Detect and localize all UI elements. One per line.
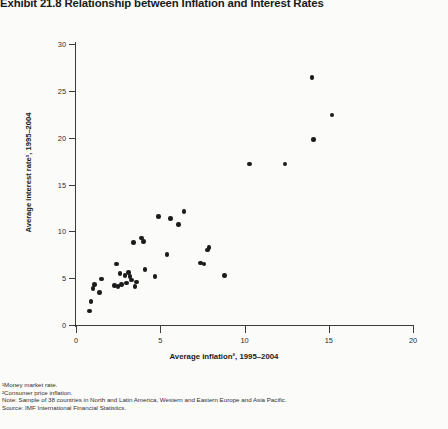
scatter-point: [207, 245, 212, 250]
y-axis-tick-label: 10: [0, 227, 66, 236]
y-axis-tick: [69, 138, 75, 139]
scatter-point: [182, 209, 187, 214]
y-axis-tick: [69, 325, 75, 326]
scatter-point: [283, 162, 288, 167]
y-axis-line: [75, 42, 76, 327]
scatter-point: [310, 75, 315, 80]
y-axis-tick: [69, 231, 75, 232]
scatter-point: [134, 280, 139, 285]
scatter-point: [99, 277, 104, 282]
scatter-point: [123, 273, 128, 278]
x-axis-tick-label: 20: [409, 336, 417, 345]
x-axis-tick: [76, 326, 77, 333]
x-axis-tick-label: 10: [240, 336, 248, 345]
footnotes: ¹Money market rate. ²Consumer price infl…: [2, 381, 446, 411]
exhibit-figure: Exhibit 21.8 Relationship between Inflat…: [0, 0, 448, 429]
scatter-point: [202, 262, 207, 267]
y-axis-tick-label: 5: [0, 274, 66, 283]
scatter-point: [153, 274, 158, 279]
footnote-2: ²Consumer price inflation.: [2, 389, 446, 397]
footnote-source: Source: IMF International Financial Stat…: [2, 404, 446, 412]
x-axis-label: Average inflation², 1995–2004: [0, 352, 448, 361]
scatter-point: [92, 282, 97, 287]
y-axis-tick-label: 25: [0, 87, 66, 96]
x-axis-tick: [413, 326, 414, 333]
scatter-point: [131, 240, 136, 245]
y-axis-tick-label: 20: [0, 134, 66, 143]
scatter-point: [133, 284, 138, 289]
x-axis-tick-label: 5: [158, 336, 162, 345]
footnote-1: ¹Money market rate.: [2, 381, 446, 389]
x-axis-tick-label: 0: [74, 336, 78, 345]
x-axis-tick: [160, 326, 161, 333]
x-axis-tick-label: 15: [325, 336, 333, 345]
scatter-point: [118, 271, 123, 276]
y-axis-tick: [69, 44, 75, 45]
scatter-point: [129, 278, 134, 283]
scatter-point: [119, 282, 124, 287]
scatter-point: [311, 137, 316, 142]
scatter-point: [330, 113, 335, 118]
y-axis-tick-label: 30: [0, 40, 66, 49]
scatter-point: [165, 252, 170, 257]
x-axis-tick: [245, 326, 246, 333]
scatter-point: [124, 281, 129, 286]
y-axis-tick: [69, 278, 75, 279]
y-axis-label: Average interest rate¹, 1995–2004: [24, 83, 33, 263]
footnote-note: Note: Sample of 38 countries in North an…: [2, 396, 446, 404]
scatter-point: [247, 162, 252, 167]
page-title: Exhibit 21.8 Relationship between Inflat…: [0, 0, 448, 10]
scatter-point: [156, 214, 161, 219]
scatter-point: [176, 222, 181, 227]
x-axis-tick: [329, 326, 330, 333]
scatter-point: [143, 267, 148, 272]
scatter-point: [87, 309, 92, 314]
y-axis-tick-label: 0: [0, 321, 66, 330]
y-axis-tick: [69, 185, 75, 186]
y-axis-tick-label: 15: [0, 181, 66, 190]
y-axis-tick: [69, 91, 75, 92]
scatter-point: [97, 290, 102, 295]
scatter-point: [168, 216, 173, 221]
scatter-point: [222, 273, 227, 278]
scatter-point: [89, 299, 94, 304]
scatter-point: [114, 262, 119, 267]
scatter-point: [141, 239, 146, 244]
